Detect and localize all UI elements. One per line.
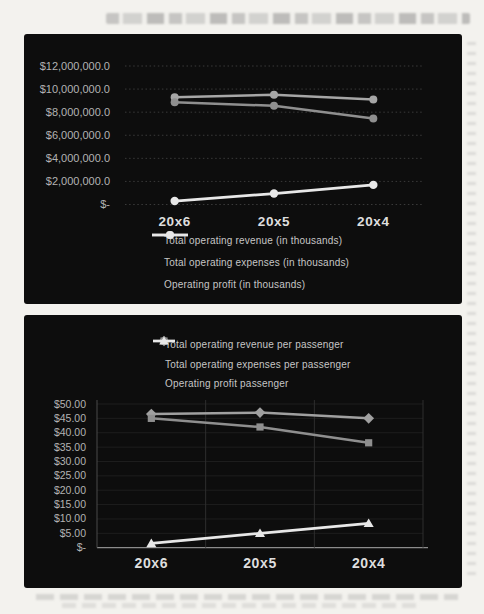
x-category-label: 20x4 xyxy=(357,214,389,229)
legend-item: Total operating revenue per passenger xyxy=(153,335,351,354)
y-tick-label: $- xyxy=(100,198,110,210)
y-tick-label: $50.00 xyxy=(54,398,86,410)
bleed-through-body-text xyxy=(36,594,458,600)
legend-triangle-marker-icon xyxy=(153,335,175,347)
y-tick-label: $2,000,000.0 xyxy=(46,175,110,187)
data-point-marker xyxy=(363,413,374,424)
x-category-label: 20x4 xyxy=(352,555,386,571)
y-tick-label: $40.00 xyxy=(54,426,86,438)
legend-item: Operating profit (in thousands) xyxy=(152,274,349,296)
legend-label: Total operating revenue per passenger xyxy=(165,339,344,350)
legend-item: Operating profit passenger xyxy=(153,374,351,393)
legend-label: Total operating expenses (in thousands) xyxy=(164,257,349,268)
x-category-label: 20x6 xyxy=(158,214,190,229)
data-point-marker xyxy=(256,423,263,430)
y-tick-label: $4,000,000.0 xyxy=(46,152,110,164)
bleed-through-margin-text xyxy=(467,42,476,578)
data-point-marker xyxy=(369,95,377,103)
per-passenger-chart-panel: $50.00$45.00$40.00$35.00$30.00$25.00$20.… xyxy=(24,315,462,588)
data-point-marker xyxy=(270,102,278,110)
y-tick-label: $30.00 xyxy=(54,455,86,467)
operating-totals-chart-panel: $12,000,000.0$10,000,000.0$8,000,000.0$6… xyxy=(24,34,462,304)
bleed-through-header-text xyxy=(106,13,470,24)
scanned-page: $12,000,000.0$10,000,000.0$8,000,000.0$6… xyxy=(0,0,484,614)
legend-label: Total operating revenue (in thousands) xyxy=(164,235,342,246)
data-point-marker xyxy=(365,439,372,446)
y-tick-label: $8,000,000.0 xyxy=(46,106,110,118)
data-point-marker xyxy=(148,415,155,422)
y-tick-label: $15.00 xyxy=(54,498,86,510)
legend-label: Operating profit passenger xyxy=(165,378,289,389)
y-tick-label: $10.00 xyxy=(54,512,86,524)
data-point-marker xyxy=(171,98,179,106)
legend-item: Total operating expenses per passenger xyxy=(153,354,351,373)
legend-circle-marker-icon xyxy=(152,229,188,241)
per-passenger-legend: Total operating revenue per passengerTot… xyxy=(153,335,351,393)
x-category-label: 20x5 xyxy=(243,555,277,571)
y-tick-label: $35.00 xyxy=(54,441,86,453)
x-category-label: 20x5 xyxy=(258,214,290,229)
data-point-marker xyxy=(270,189,278,197)
data-point-marker xyxy=(369,115,377,123)
operating-totals-legend: Total operating revenue (in thousands)To… xyxy=(152,229,349,296)
data-point-marker xyxy=(270,91,278,99)
data-point-marker xyxy=(255,407,266,418)
legend-item: Total operating expenses (in thousands) xyxy=(152,251,349,273)
x-category-label: 20x6 xyxy=(135,555,169,571)
y-tick-label: $- xyxy=(77,541,87,553)
y-tick-label: $6,000,000.0 xyxy=(46,129,110,141)
y-tick-label: $20.00 xyxy=(54,484,86,496)
legend-label: Operating profit (in thousands) xyxy=(164,279,305,290)
y-tick-label: $12,000,000.0 xyxy=(40,60,110,72)
data-point-marker xyxy=(369,181,377,189)
y-tick-label: $5.00 xyxy=(60,527,86,539)
legend-label: Total operating expenses per passenger xyxy=(165,359,351,370)
y-tick-label: $25.00 xyxy=(54,469,86,481)
y-tick-label: $10,000,000.0 xyxy=(40,83,110,95)
y-tick-label: $45.00 xyxy=(54,412,86,424)
bleed-through-body-text xyxy=(62,603,420,608)
data-point-marker xyxy=(170,197,178,205)
